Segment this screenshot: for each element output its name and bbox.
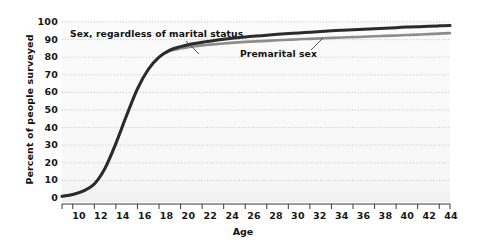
annotation-sex-regardless-of-marital-status: Sex, regardless of marital status — [70, 28, 243, 39]
x-axis-title: Age — [0, 226, 486, 237]
y-axis-title: Percent of people surveyed — [24, 10, 35, 210]
chart-figure: 100 90 80 70 60 50 40 30 20 10 0 Percent… — [0, 0, 486, 251]
x-tick-label: 44 — [436, 210, 466, 221]
annotation-premarital-sex: Premarital sex — [240, 48, 317, 59]
axis-lines — [62, 204, 450, 209]
